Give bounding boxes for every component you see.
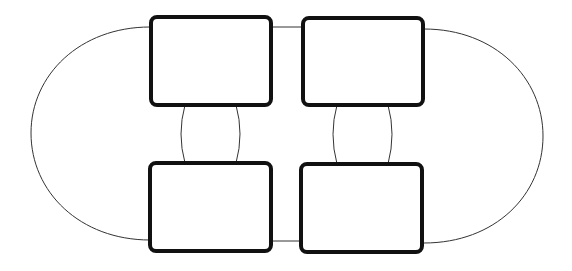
box-bottom-left — [150, 163, 271, 251]
box-top-right — [303, 18, 423, 105]
top-right-to-bottom-right-connector-b — [388, 105, 392, 164]
left-outer-arc-connector — [31, 27, 150, 240]
top-left-to-bottom-left-connector-a — [181, 105, 185, 163]
box-bottom-right — [301, 164, 422, 252]
diagram-canvas — [0, 0, 572, 271]
top-right-to-bottom-right-connector-a — [333, 105, 337, 164]
top-left-to-bottom-left-connector-b — [236, 105, 240, 163]
right-outer-arc-connector — [424, 29, 543, 243]
box-top-left — [151, 17, 271, 105]
